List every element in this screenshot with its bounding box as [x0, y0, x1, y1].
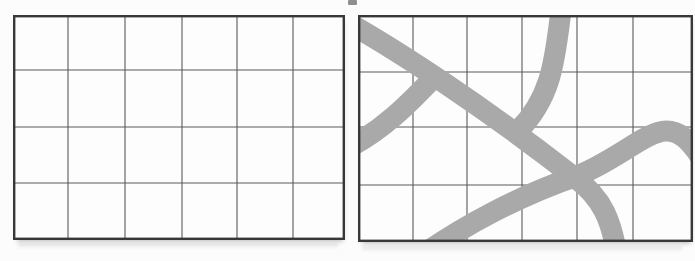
left-grid-panel [13, 15, 345, 240]
left-grid-svg [13, 15, 345, 240]
right-grid-svg [358, 15, 693, 242]
scan-shadow-smear [362, 246, 682, 252]
figure-page [0, 0, 695, 261]
page-artifact-mark [348, 0, 357, 5]
right-grid-panel [358, 15, 693, 242]
scan-shadow-smear [18, 243, 338, 249]
